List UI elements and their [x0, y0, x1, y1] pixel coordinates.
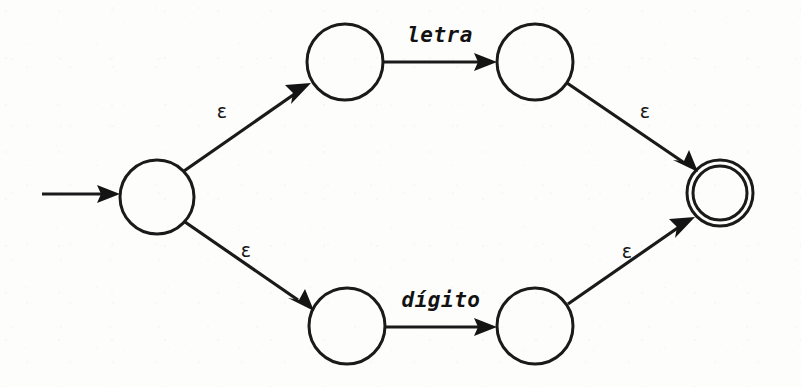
transition-q4-to-q5[interactable]: ε [568, 217, 695, 304]
transition-label-epsilon-q2-q5: ε [640, 100, 650, 122]
transition-label-epsilon-q0-q1: ε [217, 100, 227, 122]
transition-q1-to-q2[interactable]: letra [384, 23, 497, 71]
state-q2-top-right[interactable] [497, 24, 573, 100]
transition-label-digito: dígito [402, 288, 481, 312]
transition-label-epsilon-q0-q3: ε [241, 239, 251, 261]
start-arrow [42, 185, 120, 203]
transition-q0-to-q3[interactable]: ε [185, 222, 314, 311]
state-q1-top-left[interactable] [307, 24, 383, 100]
state-q0-start[interactable] [120, 160, 194, 234]
state-q4-bottom-right[interactable] [497, 288, 573, 364]
transition-q2-to-q5[interactable]: ε [567, 83, 698, 172]
diagram-canvas: ε letra ε ε dígito ε [0, 0, 801, 387]
state-q3-bottom-left[interactable] [309, 288, 385, 364]
transition-label-letra: letra [407, 23, 473, 47]
transition-label-epsilon-q4-q5: ε [622, 240, 632, 262]
automaton-figure: ε letra ε ε dígito ε [0, 0, 801, 387]
transition-q0-to-q1[interactable]: ε [184, 83, 311, 171]
transition-q3-to-q4[interactable]: dígito [386, 288, 497, 336]
